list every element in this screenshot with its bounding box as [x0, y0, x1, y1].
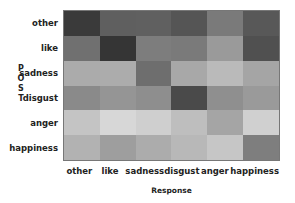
y-tick-label: happiness: [0, 135, 60, 160]
x-tick-label: disgust: [164, 166, 199, 180]
heatmap-cell: [136, 61, 172, 86]
y-tick-label: like: [0, 36, 60, 61]
heatmap-cell: [207, 86, 243, 111]
heatmap-cell: [243, 86, 279, 111]
heatmap-cell: [171, 86, 207, 111]
heatmap-cell: [207, 135, 243, 160]
heatmap-cell: [171, 110, 207, 135]
heatmap-cell: [243, 61, 279, 86]
heatmap-cell: [100, 110, 136, 135]
heatmap-cell: [64, 61, 100, 86]
heatmap-cell: [64, 36, 100, 61]
heatmap-cell: [171, 61, 207, 86]
x-tick-label: like: [95, 166, 126, 180]
heatmap-cell: [136, 11, 172, 36]
heatmap-cell: [136, 86, 172, 111]
x-tick-label: happiness: [230, 166, 279, 180]
heatmap-chart: POST other like sadness disgust anger ha…: [0, 0, 295, 203]
heatmap-cell: [207, 11, 243, 36]
heatmap-cell: [171, 11, 207, 36]
y-tick-label: disgust: [0, 86, 60, 111]
heatmap-cell: [64, 86, 100, 111]
heatmap-cell: [100, 135, 136, 160]
heatmap-cell: [136, 36, 172, 61]
heatmap-cell: [207, 61, 243, 86]
heatmap-cell: [171, 36, 207, 61]
x-tick-label: other: [64, 166, 95, 180]
heatmap-cell: [64, 11, 100, 36]
heatmap-cell: [171, 135, 207, 160]
heatmap-cell: [100, 36, 136, 61]
heatmap-cell: [243, 36, 279, 61]
heatmap-cell: [207, 36, 243, 61]
y-tick-label: sadness: [0, 61, 60, 86]
heatmap-cell: [243, 135, 279, 160]
heatmap-cell: [136, 135, 172, 160]
y-tick-label: anger: [0, 110, 60, 135]
heatmap-cell: [100, 86, 136, 111]
heatmap-cell: [136, 110, 172, 135]
y-axis-tick-labels: other like sadness disgust anger happine…: [0, 11, 60, 160]
heatmap-cell: [100, 11, 136, 36]
x-axis-tick-labels: other like sadness disgust anger happine…: [64, 166, 279, 180]
heatmap-cell: [100, 61, 136, 86]
heatmap-cell: [64, 110, 100, 135]
heatmap-cell: [243, 11, 279, 36]
x-tick-label: anger: [200, 166, 231, 180]
y-tick-label: other: [0, 11, 60, 36]
heatmap-cell: [243, 110, 279, 135]
x-axis-title: Response: [64, 186, 279, 195]
heatmap-cell: [207, 110, 243, 135]
heatmap-cell: [64, 135, 100, 160]
x-tick-label: sadness: [125, 166, 164, 180]
heatmap-grid: [64, 11, 279, 160]
